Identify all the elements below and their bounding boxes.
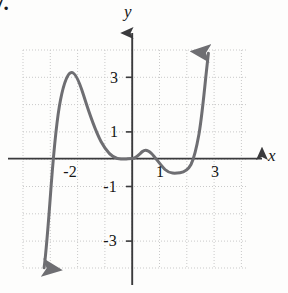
graph-plot: [0, 0, 288, 293]
y-tick-label-1: 1: [106, 123, 122, 141]
x-tick-label-3: 3: [207, 163, 223, 181]
y-tick-label-neg3: -3: [98, 232, 122, 250]
y-tick-label-3: 3: [106, 69, 122, 87]
x-tick-label-1: 1: [152, 163, 168, 181]
x-tick-label-neg2: -2: [58, 163, 82, 181]
x-axis-label: x: [268, 146, 276, 166]
function-curve: [44, 53, 208, 268]
figure-container: 7.: [0, 0, 288, 293]
y-tick-label-neg1: -1: [98, 178, 122, 196]
y-axis-label: y: [124, 2, 132, 22]
